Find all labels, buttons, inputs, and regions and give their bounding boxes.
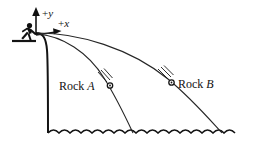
person-back-arm: [22, 28, 28, 33]
rock-b-motion-line-2: [161, 67, 171, 77]
rock-b-motion-line-1: [158, 69, 168, 79]
figure-canvas: +y +x: [0, 0, 256, 149]
rock-a-motion-line-1: [98, 72, 107, 82]
y-axis-arrowhead: [32, 7, 40, 16]
y-axis-label-var: y: [47, 7, 53, 19]
rock-b-motion-line-3: [164, 66, 174, 76]
rock-b-label-word: Rock: [178, 77, 203, 91]
water-wavy-line: [48, 130, 235, 133]
person-thrower: [21, 23, 36, 41]
rock-a-label-letter: A: [86, 79, 95, 93]
projectile-motion-figure: +y +x: [0, 0, 256, 149]
person-rear-leg: [28, 33, 32, 41]
rock-a-motion-line-3: [104, 69, 113, 79]
rock-a-center-dot: [109, 85, 111, 87]
rock-b-marker-group: [158, 66, 174, 86]
rock-a-label-word: Rock: [59, 79, 84, 93]
rock-b-center-dot: [171, 82, 173, 84]
cliff-face: [36, 33, 48, 133]
rock-b-label: Rock B: [178, 77, 214, 91]
rock-a-label: Rock A: [59, 79, 95, 93]
coordinate-axes: +y +x: [32, 7, 69, 35]
person-front-leg: [21, 32, 29, 40]
y-axis-label: +y: [42, 7, 53, 19]
water-surface: [48, 130, 235, 133]
x-axis-label: +x: [58, 17, 69, 29]
rock-b-label-letter: B: [206, 77, 214, 91]
person-head: [27, 23, 32, 28]
x-axis-label-var: x: [63, 17, 69, 29]
cliff: [12, 33, 48, 133]
